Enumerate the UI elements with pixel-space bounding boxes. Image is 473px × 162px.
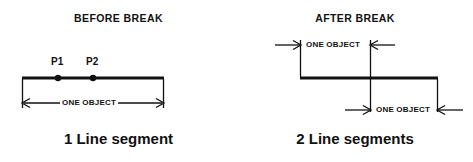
point-label-p2: P2 xyxy=(86,56,98,67)
dimension-label-upper-one-object: ONE OBJECT xyxy=(304,40,362,49)
panel-caption-after-break: 2 Line segments xyxy=(237,130,473,147)
panel-caption-before-break: 1 Line segment xyxy=(0,130,237,147)
diagram-canvas: BEFORE BREAK P1 P2 ONE OBJECT 1 Line seg… xyxy=(0,0,473,162)
panel-after-break: AFTER BREAK ONE OBJECT ONE OBJECT 2 Line… xyxy=(237,0,473,162)
point-label-p1: P1 xyxy=(51,56,63,67)
panel-before-break: BEFORE BREAK P1 P2 ONE OBJECT 1 Line seg… xyxy=(0,0,237,162)
dimension-label-one-object: ONE OBJECT xyxy=(60,98,118,107)
point-p2-marker xyxy=(90,75,96,81)
dimension-label-lower-one-object: ONE OBJECT xyxy=(374,105,432,114)
point-p1-marker xyxy=(55,75,61,81)
